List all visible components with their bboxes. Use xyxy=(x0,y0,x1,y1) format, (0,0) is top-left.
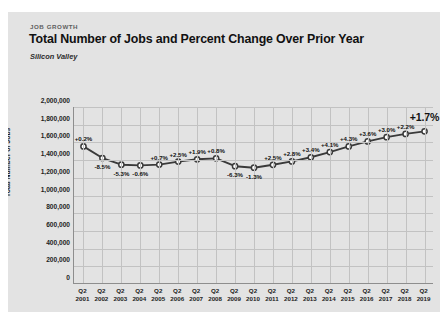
gridline-vertical xyxy=(387,107,388,283)
y-axis-tick: 1,000,000 xyxy=(10,185,70,192)
data-point-label: -1.3% xyxy=(246,173,262,180)
y-axis-tick: 1,400,000 xyxy=(10,150,70,157)
gridline-vertical xyxy=(349,107,350,283)
data-point-label: +1.9% xyxy=(188,148,205,155)
y-axis-tick: 800,000 xyxy=(10,203,70,210)
x-axis-tick: Q22019 xyxy=(409,287,439,304)
chart-title: Total Number of Jobs and Percent Change … xyxy=(29,32,364,46)
data-point-label: -0.6% xyxy=(132,170,148,177)
y-axis-tick: 200,000 xyxy=(10,256,70,263)
data-point-label: +2.5% xyxy=(169,151,186,158)
gridline-vertical xyxy=(292,107,293,283)
x-axis-tick-labels: Q22001Q22002Q22003Q22004Q22005Q22006Q220… xyxy=(73,287,433,311)
y-axis-tick: 1,200,000 xyxy=(10,167,70,174)
chart-subtitle: Silicon Valley xyxy=(30,52,77,61)
data-point-label: -8.5% xyxy=(94,163,110,170)
gridline-vertical xyxy=(121,107,122,283)
gridline-vertical xyxy=(406,107,407,283)
y-axis-tick: 1,600,000 xyxy=(10,132,70,139)
data-point-label: +0.7% xyxy=(151,154,168,161)
y-axis-tick: 0 xyxy=(10,274,70,281)
y-axis-tick: 600,000 xyxy=(10,220,70,227)
y-axis-tick: 400,000 xyxy=(10,238,70,245)
data-point-label: +2.2% xyxy=(397,123,414,130)
chart-eyebrow: JOB GROWTH xyxy=(30,23,78,30)
data-point-label: +2.5% xyxy=(264,154,281,161)
data-point-label: +3.6% xyxy=(359,130,376,137)
data-point-label: +4.1% xyxy=(321,141,338,148)
gridline-vertical xyxy=(425,107,426,283)
data-point-label: +0.2% xyxy=(75,135,92,142)
data-point-label: +1.7% xyxy=(410,111,439,123)
y-axis-tick: 1,800,000 xyxy=(10,114,70,121)
plot-area: +0.2%-8.5%-5.3%-0.6%+0.7%+2.5%+1.9%+0.8%… xyxy=(73,107,433,284)
data-point-label: -5.3% xyxy=(113,170,129,177)
data-point-label: -6.3% xyxy=(227,171,243,178)
gridline-vertical xyxy=(83,107,84,283)
gridline-vertical xyxy=(216,107,217,283)
data-point-label: +3.4% xyxy=(302,146,319,153)
gridline-vertical xyxy=(311,107,312,283)
gridline-vertical xyxy=(254,107,255,283)
y-axis-tick-labels: 0200,000400,000600,000800,0001,000,0001,… xyxy=(8,100,70,290)
data-point-label: +4.3% xyxy=(340,135,357,142)
gridline-vertical xyxy=(140,107,141,283)
data-point-label: +3.0% xyxy=(378,126,395,133)
data-point-label: +0.8% xyxy=(207,147,224,154)
data-point-label: +2.8% xyxy=(283,150,300,157)
gridline-vertical xyxy=(273,107,274,283)
gridline-vertical xyxy=(330,107,331,283)
y-axis-tick: 2,000,000 xyxy=(10,97,70,104)
gridline-vertical xyxy=(197,107,198,283)
gridline-vertical xyxy=(235,107,236,283)
gridline-vertical xyxy=(178,107,179,283)
gridline-vertical xyxy=(159,107,160,283)
chart-card: JOB GROWTH Total Number of Jobs and Perc… xyxy=(8,12,440,312)
gridline-vertical xyxy=(102,107,103,283)
